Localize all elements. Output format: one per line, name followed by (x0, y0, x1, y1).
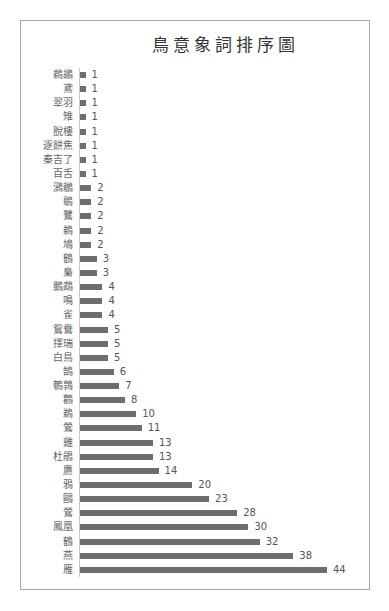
category-label: 逐餅焦 (43, 139, 73, 153)
category-label: 雉 (63, 110, 73, 124)
data-label: 4 (108, 294, 114, 308)
category-label: 鵜 (63, 407, 73, 421)
data-label: 13 (159, 450, 172, 464)
bar-row: 鳩2 (21, 238, 371, 252)
bar (80, 143, 86, 149)
bar (80, 567, 327, 573)
bar-row: 鵝鵡4 (21, 280, 371, 294)
data-label: 3 (103, 266, 109, 280)
category-label: 鷗 (63, 492, 73, 506)
bar-row: 鳴4 (21, 294, 371, 308)
category-label: 鶡 (63, 195, 73, 209)
data-label: 1 (92, 82, 98, 96)
category-label: 鶯 (63, 421, 73, 435)
bar (80, 397, 125, 403)
chart-title: 鳥意象詞排序圖 (21, 31, 369, 56)
category-label: 鵠 (63, 365, 73, 379)
bar (80, 425, 142, 431)
bar-row: 鳶1 (21, 82, 371, 96)
data-label: 4 (108, 308, 114, 322)
data-label: 8 (131, 393, 137, 407)
category-label: 鶴 (63, 535, 73, 549)
data-label: 11 (148, 421, 161, 435)
bar (80, 157, 86, 163)
bar (80, 114, 86, 120)
data-label: 3 (103, 252, 109, 266)
category-label: 鷹 (63, 464, 73, 478)
bar-row: 鵜2 (21, 224, 371, 238)
category-label: 鸂鶒 (53, 181, 73, 195)
bar-row: 雀4 (21, 308, 371, 322)
category-label: 雞 (63, 436, 73, 450)
bar-row: 鵜鶘1 (21, 68, 371, 82)
bar (80, 284, 102, 290)
bar-row: 百舌1 (21, 167, 371, 181)
data-label: 2 (97, 238, 103, 252)
bar (80, 440, 153, 446)
category-label: 雀 (63, 308, 73, 322)
bar (80, 355, 108, 361)
bar (80, 411, 136, 417)
bar-row: 鶯28 (21, 506, 371, 520)
data-label: 1 (92, 153, 98, 167)
data-label: 13 (159, 436, 172, 450)
bar (80, 171, 86, 177)
bar-row: 逐餅焦1 (21, 139, 371, 153)
bar (80, 468, 159, 474)
category-label: 擇瑞 (53, 337, 73, 351)
category-label: 鵜 (63, 224, 73, 238)
data-label: 5 (114, 323, 120, 337)
bar (80, 369, 114, 375)
bar-row: 雉1 (21, 110, 371, 124)
bar (80, 553, 293, 559)
category-label: 秦吉了 (43, 153, 73, 167)
bar (80, 510, 237, 516)
category-label: 脫樓 (53, 125, 73, 139)
bar-row: 鴉20 (21, 478, 371, 492)
category-label: 鸛 (63, 393, 73, 407)
category-label: 鴉 (63, 478, 73, 492)
bar-row: 鶴32 (21, 535, 371, 549)
data-label: 7 (125, 379, 131, 393)
chart-frame: 鳥意象詞排序圖 鵜鶘1鳶1翠羽1雉1脫樓1逐餅焦1秦吉了1百舌1鸂鶒2鶡2鷺2鵜… (20, 20, 370, 590)
data-label: 44 (333, 563, 346, 577)
data-label: 14 (165, 464, 178, 478)
bar (80, 213, 91, 219)
data-label: 32 (266, 535, 279, 549)
data-label: 28 (243, 506, 256, 520)
bar (80, 129, 86, 135)
category-label: 鳴 (63, 294, 73, 308)
category-label: 百舌 (53, 167, 73, 181)
bar-row: 白鳥5 (21, 351, 371, 365)
category-label: 燕 (63, 549, 73, 563)
data-label: 5 (114, 351, 120, 365)
bar-row: 雞13 (21, 436, 371, 450)
bar (80, 341, 108, 347)
bar-row: 鷹14 (21, 464, 371, 478)
bar (80, 242, 91, 248)
category-label: 翠羽 (53, 96, 73, 110)
bar-row: 鸛8 (21, 393, 371, 407)
bar-row: 鷗23 (21, 492, 371, 506)
data-label: 1 (92, 96, 98, 110)
bar (80, 72, 86, 78)
data-label: 2 (97, 195, 103, 209)
data-label: 1 (92, 68, 98, 82)
data-label: 1 (92, 139, 98, 153)
data-label: 1 (92, 167, 98, 181)
bar (80, 327, 108, 333)
bar-row: 杜鵑13 (21, 450, 371, 464)
bar-row: 鵠6 (21, 365, 371, 379)
data-label: 10 (142, 407, 155, 421)
bar-row: 鶡2 (21, 195, 371, 209)
bar-row: 鶯11 (21, 421, 371, 435)
bar-row: 鷺2 (21, 209, 371, 223)
category-label: 鶯 (63, 506, 73, 520)
bar (80, 482, 192, 488)
category-label: 白鳥 (53, 351, 73, 365)
bar-row: 鳳凰30 (21, 520, 371, 534)
bar-row: 脫樓1 (21, 125, 371, 139)
data-label: 2 (97, 181, 103, 195)
category-label: 雁 (63, 563, 73, 577)
bar (80, 454, 153, 460)
